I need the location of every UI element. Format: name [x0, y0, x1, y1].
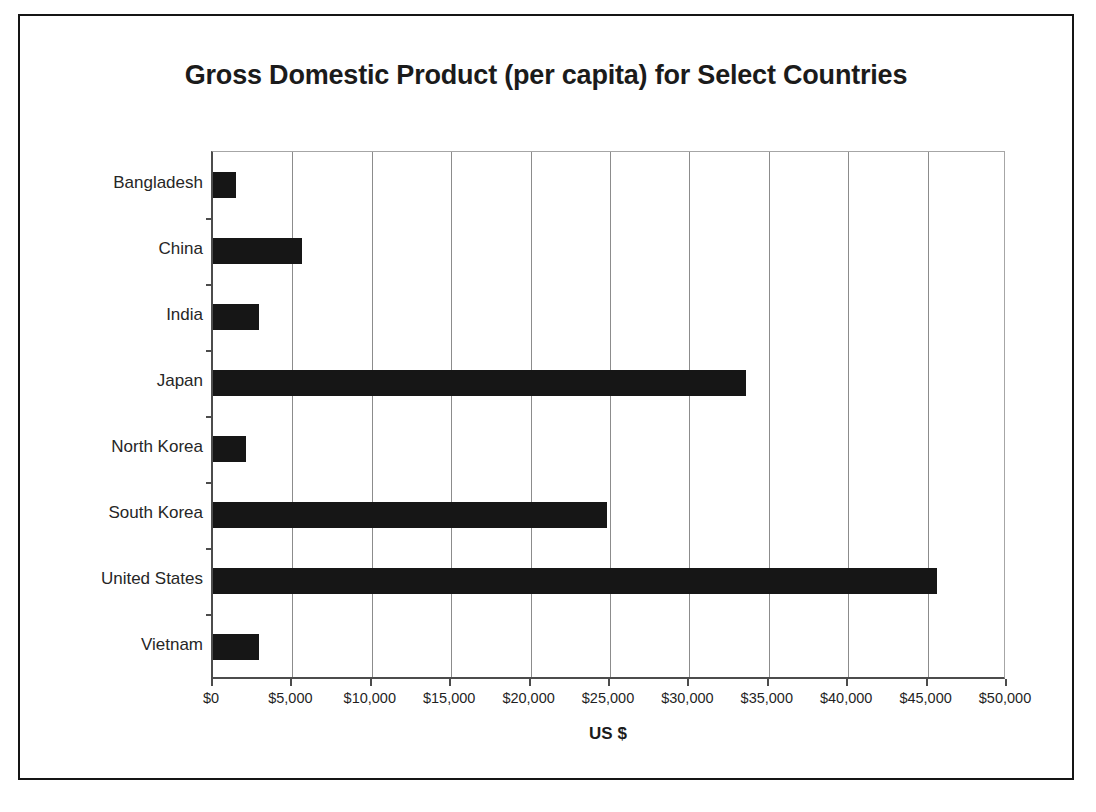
x-axis-title: US $: [211, 724, 1005, 744]
category-label: Japan: [43, 371, 203, 391]
bar-row: [213, 482, 1004, 548]
x-axis-tick-label: $35,000: [741, 690, 793, 706]
bar-row: [213, 548, 1004, 614]
y-axis-tick: [206, 284, 213, 286]
bar[interactable]: [213, 238, 302, 264]
x-axis-tick-label: $50,000: [979, 690, 1031, 706]
y-axis-tick: [206, 482, 213, 484]
x-axis-tick: [290, 679, 292, 686]
x-axis-tick: [846, 679, 848, 686]
category-label: United States: [43, 569, 203, 589]
bar-row: [213, 284, 1004, 350]
category-axis-labels: BangladeshChinaIndiaJapanNorth KoreaSout…: [33, 151, 203, 679]
x-axis-tick: [926, 679, 928, 686]
y-axis-tick: [206, 350, 213, 352]
chart-title: Gross Domestic Product (per capita) for …: [20, 60, 1072, 91]
bar[interactable]: [213, 634, 259, 660]
x-axis-tick: [1005, 679, 1007, 686]
bar[interactable]: [213, 436, 246, 462]
category-label: India: [43, 305, 203, 325]
y-axis-tick: [206, 548, 213, 550]
category-label: China: [43, 239, 203, 259]
x-axis-tick: [687, 679, 689, 686]
x-axis-tick: [211, 679, 213, 686]
bar-row: [213, 218, 1004, 284]
y-axis-tick: [206, 416, 213, 418]
bar[interactable]: [213, 172, 236, 198]
x-axis-tick: [370, 679, 372, 686]
bar[interactable]: [213, 370, 746, 396]
category-label: Vietnam: [43, 635, 203, 655]
bar[interactable]: [213, 304, 259, 330]
x-axis-tick-label: $25,000: [582, 690, 634, 706]
x-axis-tick-label: $15,000: [423, 690, 475, 706]
category-label: North Korea: [43, 437, 203, 457]
category-label: Bangladesh: [43, 173, 203, 193]
bar-row: [213, 350, 1004, 416]
y-axis-tick: [206, 614, 213, 616]
x-axis-tick-label: $10,000: [344, 690, 396, 706]
y-axis-tick: [206, 218, 213, 220]
bar[interactable]: [213, 502, 607, 528]
bar-row: [213, 416, 1004, 482]
x-axis-tick: [767, 679, 769, 686]
plot-area: [211, 151, 1005, 679]
chart-frame: Gross Domestic Product (per capita) for …: [18, 14, 1074, 780]
x-axis-tick-label: $5,000: [268, 690, 312, 706]
bar-row: [213, 614, 1004, 680]
x-axis-tick-label: $40,000: [820, 690, 872, 706]
bar-row: [213, 152, 1004, 218]
category-label: South Korea: [43, 503, 203, 523]
x-axis-tick-label: $0: [203, 690, 219, 706]
value-axis: $0$5,000$10,000$15,000$20,000$25,000$30,…: [211, 679, 1005, 719]
x-axis-tick: [529, 679, 531, 686]
x-axis-tick-label: $45,000: [899, 690, 951, 706]
bar[interactable]: [213, 568, 937, 594]
gridline: [1007, 152, 1008, 677]
x-axis-tick: [608, 679, 610, 686]
x-axis-tick-label: $30,000: [661, 690, 713, 706]
x-axis-tick: [449, 679, 451, 686]
x-axis-tick-label: $20,000: [502, 690, 554, 706]
